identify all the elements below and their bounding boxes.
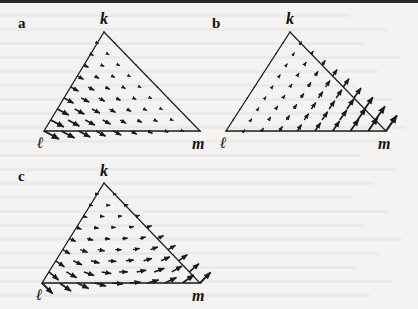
field-arrow bbox=[333, 70, 337, 76]
field-arrow bbox=[137, 270, 147, 272]
field-arrow bbox=[49, 272, 59, 280]
field-arrow bbox=[57, 109, 68, 115]
field-arrow bbox=[343, 79, 349, 87]
field-arrow bbox=[147, 226, 152, 228]
field-arrow bbox=[358, 108, 366, 120]
field-arrow bbox=[84, 272, 94, 276]
field-arrow bbox=[347, 99, 354, 109]
panel-a-vertex-m: m bbox=[192, 135, 204, 152]
field-arrow bbox=[109, 109, 115, 112]
field-arrow bbox=[294, 104, 297, 109]
field-arrow bbox=[290, 84, 292, 87]
field-arrow bbox=[155, 120, 158, 122]
panel-a-label: a bbox=[18, 15, 26, 31]
field-arrow bbox=[336, 90, 342, 98]
field-arrow bbox=[276, 106, 278, 109]
field-arrow bbox=[333, 121, 340, 131]
field-arrow bbox=[99, 98, 105, 101]
field-arrow bbox=[144, 259, 152, 261]
panel-c: c k ℓ m bbox=[18, 162, 211, 304]
field-arrow bbox=[279, 75, 280, 76]
field-arrow bbox=[84, 65, 89, 67]
field-arrow bbox=[144, 109, 147, 111]
field-arrow bbox=[71, 87, 79, 91]
field-arrow bbox=[189, 264, 199, 272]
field-arrow bbox=[79, 131, 90, 137]
field-arrow bbox=[66, 272, 76, 278]
field-arrow bbox=[172, 266, 182, 272]
field-arrow bbox=[286, 115, 289, 120]
field-arrow bbox=[375, 106, 385, 120]
field-arrow bbox=[350, 119, 358, 131]
vector-field-figure: a k ℓ m b k ℓ m c k ℓ m bbox=[0, 0, 418, 309]
field-arrow bbox=[122, 238, 128, 239]
field-arrow bbox=[161, 109, 162, 110]
panel-a-arrows bbox=[44, 31, 201, 139]
field-arrow bbox=[96, 131, 106, 136]
field-arrow bbox=[133, 248, 140, 249]
panel-a: a k ℓ m bbox=[18, 10, 204, 152]
field-arrow bbox=[272, 86, 273, 87]
field-arrow bbox=[297, 125, 302, 131]
field-arrow bbox=[286, 64, 287, 65]
panel-b-triangle bbox=[226, 32, 386, 131]
field-arrow bbox=[322, 60, 325, 65]
panel-a-vertex-k: k bbox=[100, 10, 108, 27]
field-arrow bbox=[140, 237, 146, 239]
field-arrow bbox=[326, 81, 330, 87]
field-arrow bbox=[68, 120, 79, 126]
field-arrow bbox=[322, 112, 328, 120]
field-arrow bbox=[127, 109, 131, 111]
field-arrow bbox=[103, 120, 111, 124]
field-arrow bbox=[95, 76, 99, 78]
field-arrow bbox=[137, 120, 142, 122]
field-arrow bbox=[154, 268, 164, 272]
field-arrow bbox=[56, 261, 65, 267]
field-arrow bbox=[308, 82, 311, 87]
field-arrow bbox=[63, 250, 70, 254]
field-arrow bbox=[386, 115, 397, 131]
field-arrow bbox=[329, 101, 335, 109]
field-arrow bbox=[44, 131, 59, 139]
field-arrow bbox=[311, 103, 316, 109]
field-arrow bbox=[94, 227, 99, 228]
field-arrow bbox=[279, 126, 282, 131]
panel-c-label: c bbox=[18, 168, 25, 184]
field-arrow bbox=[60, 283, 71, 291]
field-arrow bbox=[120, 120, 126, 123]
field-arrow bbox=[294, 53, 295, 54]
field-arrow bbox=[42, 283, 53, 294]
field-arrow bbox=[179, 255, 188, 261]
field-arrow bbox=[258, 108, 259, 109]
panel-b-vertex-m: m bbox=[378, 135, 390, 152]
field-arrow bbox=[126, 260, 134, 261]
field-arrow bbox=[301, 93, 304, 98]
panel-c-arrows bbox=[42, 182, 211, 293]
field-arrow bbox=[116, 98, 121, 100]
panel-a-vertex-l: ℓ bbox=[36, 134, 44, 151]
field-arrow bbox=[304, 114, 309, 120]
field-arrow bbox=[269, 117, 271, 120]
panel-b-vertex-k: k bbox=[286, 10, 294, 27]
field-arrow bbox=[102, 272, 112, 274]
field-arrow bbox=[165, 278, 177, 283]
field-arrow bbox=[354, 88, 361, 98]
panel-c-vertex-l: ℓ bbox=[35, 286, 43, 303]
field-arrow bbox=[77, 283, 89, 288]
field-arrow bbox=[129, 227, 134, 228]
field-arrow bbox=[91, 261, 100, 263]
field-arrow bbox=[129, 76, 130, 77]
field-arrow bbox=[151, 98, 152, 99]
field-arrow bbox=[318, 92, 323, 98]
field-arrow bbox=[315, 123, 321, 131]
field-arrow bbox=[297, 73, 299, 76]
field-arrow bbox=[133, 98, 136, 100]
field-arrow bbox=[200, 272, 211, 283]
field-arrow bbox=[61, 131, 74, 138]
field-arrow bbox=[150, 247, 157, 250]
field-arrow bbox=[168, 245, 176, 249]
field-arrow bbox=[70, 239, 76, 242]
panel-b-vertex-l: ℓ bbox=[219, 134, 227, 151]
panel-b: b k ℓ m bbox=[212, 10, 397, 152]
field-arrow bbox=[81, 98, 89, 102]
